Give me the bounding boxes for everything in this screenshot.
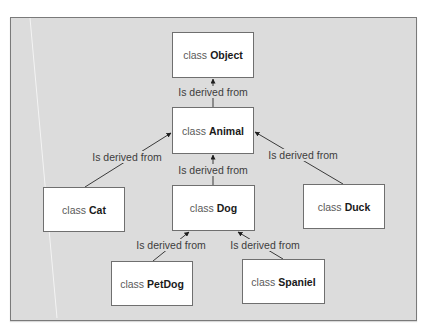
class-node-dog: class Dog	[172, 185, 255, 231]
class-node-duck: class Duck	[303, 184, 385, 229]
class-node-spaniel: class Spaniel	[242, 259, 325, 304]
class-node-animal: class Animal	[172, 107, 254, 154]
edge-label-spaniel-dog: Is derived from	[229, 239, 300, 251]
edge-label-petdog-dog: Is derived from	[135, 239, 206, 251]
class-name: Dog	[217, 202, 237, 214]
class-keyword: class	[251, 276, 275, 288]
class-name: Cat	[89, 204, 106, 216]
edge-label-duck-animal: Is derived from	[267, 149, 338, 161]
class-name: Animal	[209, 125, 244, 137]
class-keyword: class	[183, 49, 207, 61]
class-keyword: class	[62, 204, 86, 216]
class-keyword: class	[190, 202, 214, 214]
class-node-petdog: class PetDog	[111, 261, 193, 306]
edge-label-animal-object: Is derived from	[177, 86, 248, 98]
class-name: Spaniel	[278, 276, 315, 288]
class-keyword: class	[120, 278, 144, 290]
class-node-object: class Object	[172, 32, 254, 78]
class-name: Object	[210, 49, 243, 61]
class-name: PetDog	[147, 278, 184, 290]
class-keyword: class	[182, 125, 206, 137]
class-keyword: class	[318, 201, 342, 213]
edge-label-dog-animal: Is derived from	[177, 164, 248, 176]
edge-label-cat-animal: Is derived from	[91, 151, 162, 163]
class-node-cat: class Cat	[43, 187, 125, 232]
class-name: Duck	[345, 201, 371, 213]
